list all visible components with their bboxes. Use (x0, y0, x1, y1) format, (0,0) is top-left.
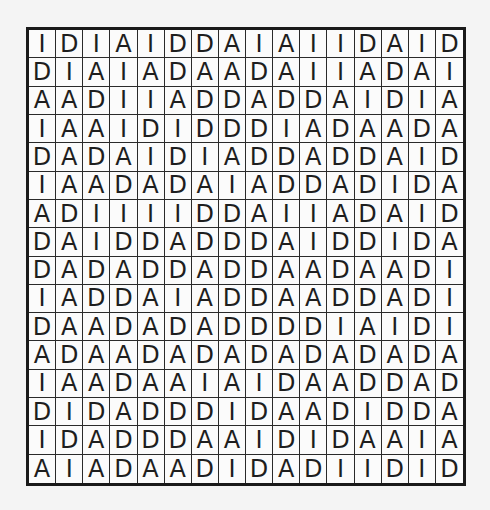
grid-cell[interactable]: A (56, 285, 83, 313)
grid-cell[interactable]: I (327, 455, 354, 483)
grid-cell[interactable]: D (355, 200, 382, 228)
grid-cell[interactable]: D (409, 313, 436, 341)
grid-cell[interactable]: I (409, 200, 436, 228)
grid-cell[interactable]: I (300, 200, 327, 228)
grid-cell[interactable]: A (327, 200, 354, 228)
grid-cell[interactable]: I (219, 455, 246, 483)
grid-cell[interactable]: A (138, 313, 165, 341)
grid-cell[interactable]: I (138, 30, 165, 58)
grid-cell[interactable]: A (219, 370, 246, 398)
grid-cell[interactable]: A (192, 257, 219, 285)
grid-cell[interactable]: D (29, 313, 56, 341)
grid-cell[interactable]: D (300, 172, 327, 200)
grid-cell[interactable]: I (192, 370, 219, 398)
grid-cell[interactable]: D (165, 172, 192, 200)
grid-cell[interactable]: A (355, 58, 382, 86)
grid-cell[interactable]: I (355, 455, 382, 483)
grid-cell[interactable]: D (110, 455, 137, 483)
grid-cell[interactable]: D (355, 285, 382, 313)
grid-cell[interactable]: D (409, 341, 436, 369)
grid-cell[interactable]: I (273, 115, 300, 143)
grid-cell[interactable]: I (436, 313, 463, 341)
grid-cell[interactable]: A (382, 115, 409, 143)
grid-cell[interactable]: D (192, 341, 219, 369)
grid-cell[interactable]: A (409, 370, 436, 398)
grid-cell[interactable]: A (138, 285, 165, 313)
grid-cell[interactable]: A (83, 341, 110, 369)
grid-cell[interactable]: D (246, 455, 273, 483)
grid-cell[interactable]: A (246, 172, 273, 200)
grid-cell[interactable]: I (138, 200, 165, 228)
grid-cell[interactable]: D (165, 257, 192, 285)
grid-cell[interactable]: I (110, 58, 137, 86)
grid-cell[interactable]: A (382, 200, 409, 228)
grid-cell[interactable]: I (29, 426, 56, 454)
grid-cell[interactable]: D (56, 341, 83, 369)
grid-cell[interactable]: D (110, 172, 137, 200)
grid-cell[interactable]: A (56, 370, 83, 398)
grid-cell[interactable]: A (355, 313, 382, 341)
grid-cell[interactable]: D (409, 228, 436, 256)
grid-cell[interactable]: D (273, 87, 300, 115)
grid-cell[interactable]: A (300, 257, 327, 285)
grid-cell[interactable]: I (436, 285, 463, 313)
grid-cell[interactable]: A (327, 370, 354, 398)
grid-cell[interactable]: A (273, 398, 300, 426)
grid-cell[interactable]: I (327, 30, 354, 58)
grid-cell[interactable]: D (219, 115, 246, 143)
grid-cell[interactable]: A (219, 30, 246, 58)
grid-cell[interactable]: A (56, 143, 83, 171)
grid-cell[interactable]: A (436, 426, 463, 454)
grid-cell[interactable]: A (355, 257, 382, 285)
grid-cell[interactable]: A (382, 30, 409, 58)
grid-cell[interactable]: A (138, 455, 165, 483)
grid-cell[interactable]: I (29, 370, 56, 398)
grid-cell[interactable]: D (409, 257, 436, 285)
grid-cell[interactable]: A (436, 87, 463, 115)
grid-cell[interactable]: D (165, 143, 192, 171)
grid-cell[interactable]: D (219, 257, 246, 285)
grid-cell[interactable]: I (409, 455, 436, 483)
grid-cell[interactable]: A (56, 115, 83, 143)
grid-cell[interactable]: D (382, 398, 409, 426)
grid-cell[interactable]: D (138, 257, 165, 285)
grid-cell[interactable]: D (246, 313, 273, 341)
grid-cell[interactable]: A (110, 30, 137, 58)
grid-cell[interactable]: A (192, 285, 219, 313)
grid-cell[interactable]: D (273, 370, 300, 398)
grid-cell[interactable]: A (110, 257, 137, 285)
grid-cell[interactable]: D (327, 115, 354, 143)
grid-cell[interactable]: A (273, 257, 300, 285)
grid-cell[interactable]: I (83, 200, 110, 228)
grid-cell[interactable]: D (138, 398, 165, 426)
grid-cell[interactable]: D (409, 398, 436, 426)
grid-cell[interactable]: D (300, 455, 327, 483)
grid-cell[interactable]: I (246, 426, 273, 454)
grid-cell[interactable]: D (327, 143, 354, 171)
grid-cell[interactable]: A (138, 172, 165, 200)
grid-cell[interactable]: A (436, 115, 463, 143)
grid-cell[interactable]: I (273, 200, 300, 228)
grid-cell[interactable]: D (192, 30, 219, 58)
grid-cell[interactable]: D (355, 172, 382, 200)
grid-cell[interactable]: A (29, 87, 56, 115)
grid-cell[interactable]: A (83, 455, 110, 483)
grid-cell[interactable]: D (273, 313, 300, 341)
grid-cell[interactable]: A (56, 257, 83, 285)
grid-cell[interactable]: D (110, 285, 137, 313)
grid-cell[interactable]: D (436, 370, 463, 398)
grid-cell[interactable]: A (436, 398, 463, 426)
grid-cell[interactable]: D (138, 115, 165, 143)
grid-cell[interactable]: I (219, 172, 246, 200)
grid-cell[interactable]: I (300, 58, 327, 86)
grid-cell[interactable]: A (300, 285, 327, 313)
grid-cell[interactable]: I (409, 426, 436, 454)
grid-cell[interactable]: D (29, 398, 56, 426)
grid-cell[interactable]: D (138, 426, 165, 454)
grid-cell[interactable]: I (110, 200, 137, 228)
grid-cell[interactable]: I (110, 87, 137, 115)
grid-cell[interactable]: D (29, 143, 56, 171)
grid-cell[interactable]: I (138, 87, 165, 115)
grid-cell[interactable]: D (165, 313, 192, 341)
grid-cell[interactable]: A (436, 172, 463, 200)
